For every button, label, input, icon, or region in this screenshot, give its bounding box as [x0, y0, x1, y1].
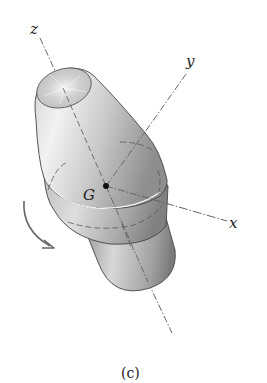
y-axis-label: y	[185, 52, 195, 70]
curved-arrow-clockwise-icon	[24, 201, 54, 248]
z-axis-lower	[148, 282, 172, 333]
figure-caption: (c)	[121, 365, 140, 381]
x-axis-outer	[165, 203, 227, 221]
rigid-body-diagram: z y x G (c)	[0, 0, 267, 383]
center-of-mass-label: G	[83, 186, 95, 204]
y-axis-outer	[145, 74, 186, 132]
x-axis-label: x	[229, 214, 238, 232]
center-of-mass-dot	[103, 183, 109, 189]
z-axis-label: z	[29, 20, 38, 38]
